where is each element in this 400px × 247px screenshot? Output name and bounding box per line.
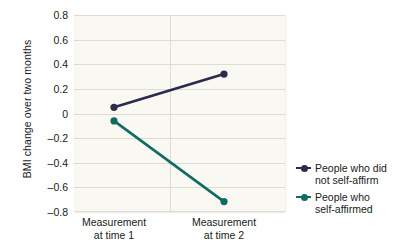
y-tick-2: 0.4 [34, 59, 68, 70]
y-tick-7: –0.6 [34, 182, 68, 193]
x-tick-time1-line1: Measurement [54, 216, 174, 229]
navy-point-time2 [220, 71, 227, 78]
legend-teal-line2: self-affirmed [315, 203, 373, 215]
y-tick-0: 0.8 [34, 10, 68, 21]
legend-label-did-not-self-affirm: People who did not self-affirm [315, 162, 387, 186]
legend-navy-line1: People who did [315, 162, 387, 174]
x-tick-time2-line2: at time 2 [164, 229, 284, 242]
x-tick-label-time-1: Measurement at time 1 [54, 216, 174, 241]
teal-point-time2 [220, 198, 227, 205]
x-tick-time1-line2: at time 1 [54, 229, 174, 242]
legend-navy-line2: not self-affirm [315, 174, 378, 186]
chart-legend: People who did not self-affirm People wh… [296, 162, 400, 220]
x-tick-label-time-2: Measurement at time 2 [164, 216, 284, 241]
legend-marker-teal-icon [296, 191, 311, 203]
y-tick-1: 0.6 [34, 35, 68, 46]
plot-area [74, 15, 285, 212]
series-people-who-did-not-self-affirm [110, 71, 227, 111]
bmi-self-affirmation-line-chart: BMI change over two months 0.8 0.6 0.4 0… [0, 0, 400, 247]
y-tick-4: 0 [34, 109, 68, 120]
series-people-who-self-affirmed [110, 117, 227, 205]
legend-item-did-not-self-affirm: People who did not self-affirm [296, 162, 400, 186]
y-tick-3: 0.2 [34, 84, 68, 95]
legend-item-self-affirmed: People who self-affirmed [296, 191, 400, 215]
y-tick-5: –0.2 [34, 133, 68, 144]
series-lines [74, 15, 285, 212]
y-tick-6: –0.4 [34, 158, 68, 169]
legend-marker-navy-icon [296, 162, 311, 174]
legend-teal-line1: People who [315, 191, 370, 203]
teal-point-time1 [110, 117, 117, 124]
legend-label-self-affirmed: People who self-affirmed [315, 191, 373, 215]
x-tick-time2-line1: Measurement [164, 216, 284, 229]
navy-point-time1 [110, 104, 117, 111]
navy-line-segment [114, 74, 224, 107]
y-axis-tick-labels: 0.8 0.6 0.4 0.2 0 –0.2 –0.4 –0.6 –0.8 [28, 0, 68, 247]
teal-line-segment [114, 121, 224, 202]
